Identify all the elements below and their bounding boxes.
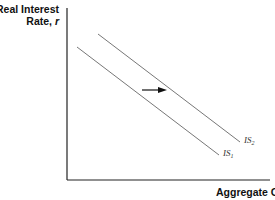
diagram-canvas: IS2 IS1 [0,0,275,200]
is2-label: IS2 [243,135,255,146]
is1-curve [77,47,219,155]
is1-label: IS1 [222,148,234,159]
is2-curve [98,34,240,142]
x-axis-label: Aggregate Output, Y [216,186,275,198]
shift-arrow-icon [142,87,167,93]
